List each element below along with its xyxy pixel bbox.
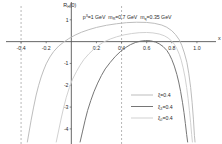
x-axis-label: x	[218, 35, 221, 41]
legend-label-0: ξ=0.4	[158, 92, 171, 98]
y-tick--4: -4	[64, 126, 69, 132]
curve-xi	[27, 22, 195, 142]
x-tick-0.6: 0.6	[143, 45, 150, 51]
legend: ξ=0.4ξ₃=0.4ξ₀=0.4	[131, 92, 173, 121]
plot-canvas: -0.4-0.20.20.40.60.81.0 1-1-2-3-4 RH(0) …	[0, 0, 222, 144]
legend-label-1: ξ₃=0.4	[158, 104, 173, 110]
parameter-annotation: p3=1 GeV mR=0.7 GeV mq=0.35 GeV	[83, 14, 172, 21]
x-tick--0.2: -0.2	[42, 45, 51, 51]
curve-xi3	[80, 41, 188, 142]
x-tick-1.0: 1.0	[193, 45, 200, 51]
legend-label-2: ξ₀=0.4	[158, 115, 173, 121]
figure-plot-r-h-zero: -0.4-0.20.20.40.60.81.0 1-1-2-3-4 RH(0) …	[0, 0, 222, 144]
x-tick-0.8: 0.8	[168, 45, 175, 51]
y-axis-label: RH(0)	[63, 2, 76, 9]
x-tick-0.4: 0.4	[118, 45, 125, 51]
y-tick--1: -1	[64, 60, 69, 66]
y-tick--2: -2	[64, 82, 69, 88]
y-tick-1: 1	[66, 17, 69, 23]
data-curves	[27, 22, 195, 142]
x-tick--0.4: -0.4	[17, 45, 26, 51]
y-axis-tick-labels: 1-1-2-3-4	[64, 17, 71, 132]
